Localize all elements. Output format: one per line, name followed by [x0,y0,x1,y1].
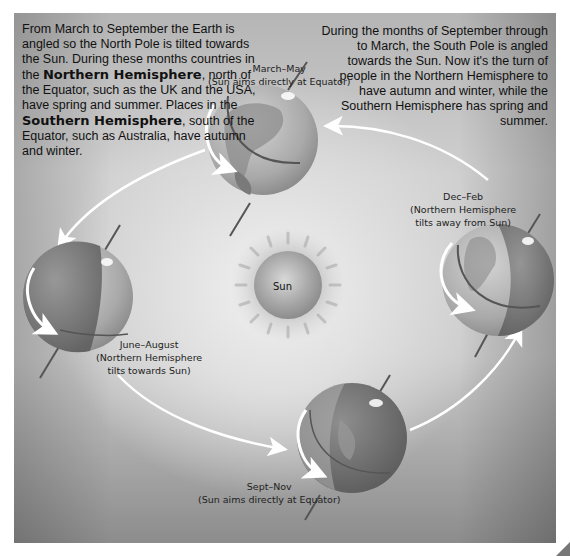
season-subtitle-line2: tilts towards Sun) [96,364,202,377]
season-subtitle-line2: tilts away from Sun) [410,216,516,229]
caption-sept-nov: Sept–Nov (Sun aims directly at Equator) [198,480,341,506]
season-subtitle: (Sun aims directly at Equator) [198,493,341,506]
intro-text-north: From March to September the Earth is ang… [22,22,262,159]
season-subtitle-line1: (Northern Hemisphere [410,203,516,216]
orbit-arrow-bottom-left [118,375,283,449]
season-title: Dec–Feb [410,190,516,203]
caption-dec-feb: Dec–Feb (Northern Hemisphere tilts away … [410,190,516,229]
orbit-arrow-bottom-right [410,330,520,430]
orbit-arrow-top-right [328,126,488,180]
orbit-arrow-top-left [60,150,205,245]
sun-label: Sun [273,281,292,292]
southern-hemisphere-term: Southern Hemisphere [22,113,182,128]
caption-march-may: March–May (Sun aims directly at Equator) [208,62,351,88]
season-title: June–August [96,338,202,351]
season-subtitle-line1: (Northern Hemisphere [96,351,202,364]
globe-dec-feb [441,214,554,357]
northern-hemisphere-term: Northern Hemisphere [43,67,202,82]
season-title: March–May [208,62,351,75]
season-subtitle: (Sun aims directly at Equator) [208,75,351,88]
page-corner-mark [556,542,570,556]
caption-june-august: June–August (Northern Hemisphere tilts t… [96,338,202,377]
season-title: Sept–Nov [198,480,341,493]
